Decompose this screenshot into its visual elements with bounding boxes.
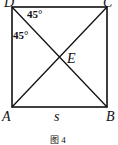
vertex-label-a: A bbox=[1, 109, 11, 124]
figure-svg: D C A B E s 45° 45° 图 4 bbox=[0, 0, 118, 145]
side-label-s: s bbox=[54, 109, 60, 124]
intersection-label-e: E bbox=[66, 51, 76, 66]
angle-label-left: 45° bbox=[13, 29, 28, 41]
vertex-label-c: C bbox=[103, 0, 113, 10]
vertex-label-b: B bbox=[106, 109, 115, 124]
figure-caption: 图 4 bbox=[50, 135, 66, 145]
vertex-label-d: D bbox=[3, 0, 14, 10]
angle-label-top: 45° bbox=[27, 8, 42, 20]
square-diagonals-figure: D C A B E s 45° 45° 图 4 bbox=[0, 0, 118, 145]
